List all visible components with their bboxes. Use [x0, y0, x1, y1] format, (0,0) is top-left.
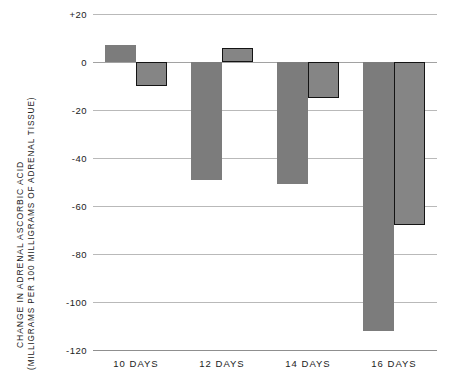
x-tick-label-12-days: 12 DAYS [199, 358, 244, 369]
x-tick-label-10-days: 10 DAYS [113, 358, 158, 369]
y-tick-label: 0 [81, 57, 87, 68]
y-tick-label: -20 [72, 105, 87, 116]
y-tick-label: -40 [72, 153, 87, 164]
bar-10-days-second-bar [136, 62, 167, 86]
y-axis-label-line1: CHANGE IN ADRENAL ASCORBIC ACID [15, 161, 25, 348]
bar-16-days-second-bar [394, 62, 425, 225]
bar-14-days-first-bar [277, 62, 308, 184]
plot-area: +200-20-40-60-80-100-120 [93, 14, 437, 350]
gridline--120: -120 [93, 350, 437, 351]
bar-10-days-first-bar [105, 45, 136, 62]
y-tick-label: +20 [69, 9, 87, 20]
y-tick-label: -80 [72, 249, 87, 260]
bar-12-days-first-bar [191, 62, 222, 180]
x-tick-label-16-days: 16 DAYS [371, 358, 416, 369]
y-axis-label: CHANGE IN ADRENAL ASCORBIC ACID (MILLIGR… [0, 0, 34, 383]
y-tick-label: -120 [66, 345, 87, 356]
bar-16-days-first-bar [363, 62, 394, 331]
y-tick-label: -60 [72, 201, 87, 212]
bar-14-days-second-bar [308, 62, 339, 98]
x-tick-label-14-days: 14 DAYS [285, 358, 330, 369]
x-axis-labels: 10 DAYS12 DAYS14 DAYS16 DAYS [93, 358, 437, 378]
y-tick-label: -100 [66, 297, 87, 308]
gridline-20: +20 [93, 14, 437, 15]
chart-root: CHANGE IN ADRENAL ASCORBIC ACID (MILLIGR… [0, 0, 452, 383]
y-axis-label-line2: (MILLIGRAMS PER 100 MILLIGRAMS OF ADRENA… [27, 97, 36, 370]
bar-12-days-second-bar [222, 48, 253, 62]
